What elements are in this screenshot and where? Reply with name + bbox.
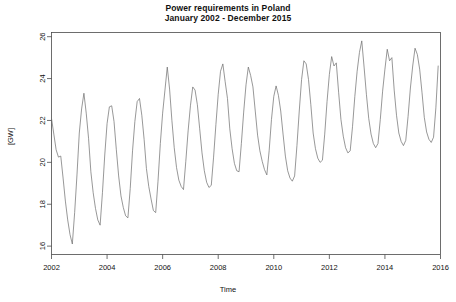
x-axis-label: Time bbox=[0, 285, 456, 294]
y-axis-tick-label: 24 bbox=[38, 74, 47, 82]
y-axis-tick-label: 16 bbox=[38, 242, 47, 250]
x-axis-tick-label: 2014 bbox=[377, 263, 394, 272]
x-axis-tick-label: 2016 bbox=[432, 263, 449, 272]
chart-plot-area: 2002200420062008201020122014201616182022… bbox=[0, 0, 456, 302]
x-axis-tick-label: 2006 bbox=[154, 263, 171, 272]
chart-figure: Power requirements in Poland January 200… bbox=[0, 0, 456, 302]
x-axis-tick-label: 2012 bbox=[321, 263, 338, 272]
x-axis-tick-label: 2008 bbox=[210, 263, 227, 272]
y-axis-label: [GW] bbox=[6, 107, 15, 167]
y-axis-tick-label: 26 bbox=[38, 33, 47, 41]
x-axis-tick-label: 2004 bbox=[99, 263, 116, 272]
y-axis-tick-label: 20 bbox=[38, 158, 47, 166]
x-axis-tick-label: 2002 bbox=[43, 263, 60, 272]
x-axis-tick-label: 2010 bbox=[265, 263, 282, 272]
y-axis-tick-label: 22 bbox=[38, 116, 47, 124]
y-axis-tick-label: 18 bbox=[38, 200, 47, 208]
series-line bbox=[52, 41, 439, 244]
plot-frame bbox=[52, 33, 441, 255]
